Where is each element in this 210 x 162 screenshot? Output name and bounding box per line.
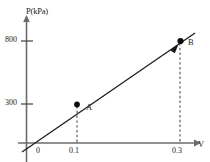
y-axis-arrowhead — [23, 15, 30, 22]
x-tick-label-origin: 0 — [36, 147, 40, 155]
data-point-a-marker — [74, 102, 80, 108]
x-tick-label-0-1: 0.1 — [69, 147, 79, 155]
data-line — [22, 33, 195, 152]
y-tick-label-300: 300 — [5, 99, 17, 107]
chart-canvas — [0, 0, 210, 162]
y-tick-label-800: 800 — [5, 36, 17, 44]
data-point-b-marker — [177, 38, 183, 44]
data-point-b-label: B — [188, 38, 194, 47]
x-axis-label: V — [198, 140, 204, 149]
x-tick-label-0-3: 0.3 — [172, 147, 182, 155]
data-point-a-label: A — [86, 103, 92, 112]
y-axis — [23, 15, 30, 162]
y-axis-label: P(kPa) — [26, 7, 48, 16]
pressure-volume-chart: P(kPa) V 800 300 0 0.1 0.3 A B — [0, 0, 210, 162]
